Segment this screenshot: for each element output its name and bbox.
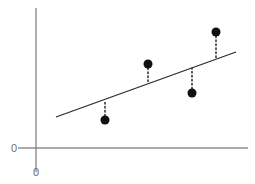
data-points-group <box>101 28 221 125</box>
scatter-plot-figure: 0 0 <box>0 0 255 184</box>
plot-canvas: 0 0 <box>0 0 255 184</box>
data-point <box>212 28 221 37</box>
y-axis-origin-label: 0 <box>11 142 17 154</box>
data-point <box>188 89 197 98</box>
residual-lines-group <box>105 32 216 120</box>
data-point <box>101 116 110 125</box>
x-axis-origin-label: 0 <box>33 166 39 178</box>
data-point <box>144 60 153 69</box>
